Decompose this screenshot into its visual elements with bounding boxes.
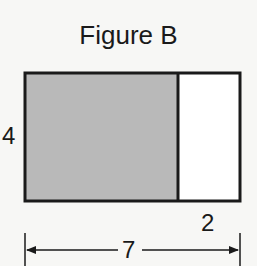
right-arrowhead-icon bbox=[229, 246, 239, 254]
figure-diagram bbox=[0, 0, 257, 266]
shaded-region bbox=[25, 73, 178, 201]
unshaded-region bbox=[178, 73, 240, 201]
left-arrowhead-icon bbox=[26, 246, 36, 254]
total-width-label: 7 bbox=[122, 236, 135, 264]
height-label: 4 bbox=[2, 122, 15, 150]
unshaded-width-label: 2 bbox=[201, 209, 214, 237]
